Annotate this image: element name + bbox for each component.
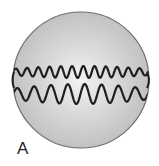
sphere bbox=[13, 12, 149, 148]
panel-label: A bbox=[17, 140, 28, 157]
